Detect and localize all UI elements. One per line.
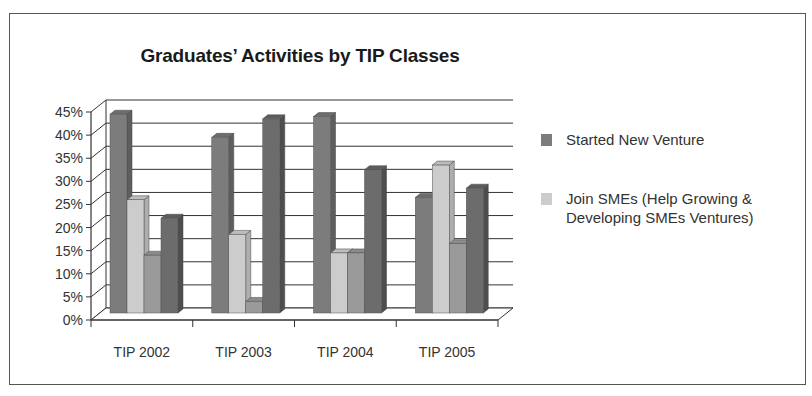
gridline-side [91,262,106,274]
y-tick-label: 5% [63,289,83,305]
gridline-side [91,123,106,135]
bar [466,184,488,313]
y-tick-label: 0% [63,312,83,328]
legend-swatch [541,193,552,205]
bar [161,214,183,313]
legend-label: Join SMEs (Help Growing & Developing SME… [566,190,754,226]
x-tick-label: TIP 2003 [215,344,272,360]
legend-item: Join SMEs (Help Growing & Developing SME… [536,189,806,227]
legend-swatch [541,134,552,146]
legend-label: Started New Venture [566,131,704,148]
gridline-side [91,192,106,204]
y-tick-label: 30% [55,173,83,189]
legend: Started New VentureJoin SMEs (Help Growi… [536,130,806,227]
y-tick-label: 25% [55,196,83,212]
y-tick-label: 20% [55,220,83,236]
x-tick-label: TIP 2005 [419,344,476,360]
legend-item: Started New Venture [536,130,806,149]
y-tick-label: 40% [55,127,83,143]
bar [365,166,387,313]
gridline-side [91,100,106,112]
gridline-side [91,216,106,228]
y-tick-label: 45% [55,104,83,120]
bar [263,115,285,313]
x-tick-label: TIP 2002 [114,344,171,360]
gridline-side [91,239,106,251]
gridline-side [91,285,106,297]
y-tick-label: 10% [55,266,83,282]
gridline-side [91,169,106,181]
gridline-side [91,146,106,158]
y-tick-label: 35% [55,150,83,166]
x-tick-label: TIP 2004 [317,344,374,360]
y-tick-label: 15% [55,243,83,259]
